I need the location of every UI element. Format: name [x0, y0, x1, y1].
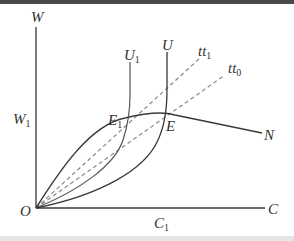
curve-N	[36, 113, 262, 208]
u1-label: U1	[124, 47, 140, 65]
x-axis-label: C	[268, 201, 279, 217]
origin-label: O	[20, 203, 31, 219]
c1-label: C1	[154, 215, 169, 233]
tt0-label: tt0	[228, 60, 241, 78]
e-label: E	[165, 118, 175, 134]
w1-label: W1	[13, 111, 31, 129]
e1-label: E1	[107, 112, 122, 130]
y-axis-label: W	[31, 9, 45, 25]
tt1-label: tt1	[198, 43, 211, 61]
ray-tt1	[36, 58, 200, 208]
economics-diagram: W C O W1 C1 U1 U tt1 tt0 N E1 E	[0, 0, 294, 241]
n-label: N	[263, 127, 275, 143]
u-label: U	[162, 37, 174, 53]
